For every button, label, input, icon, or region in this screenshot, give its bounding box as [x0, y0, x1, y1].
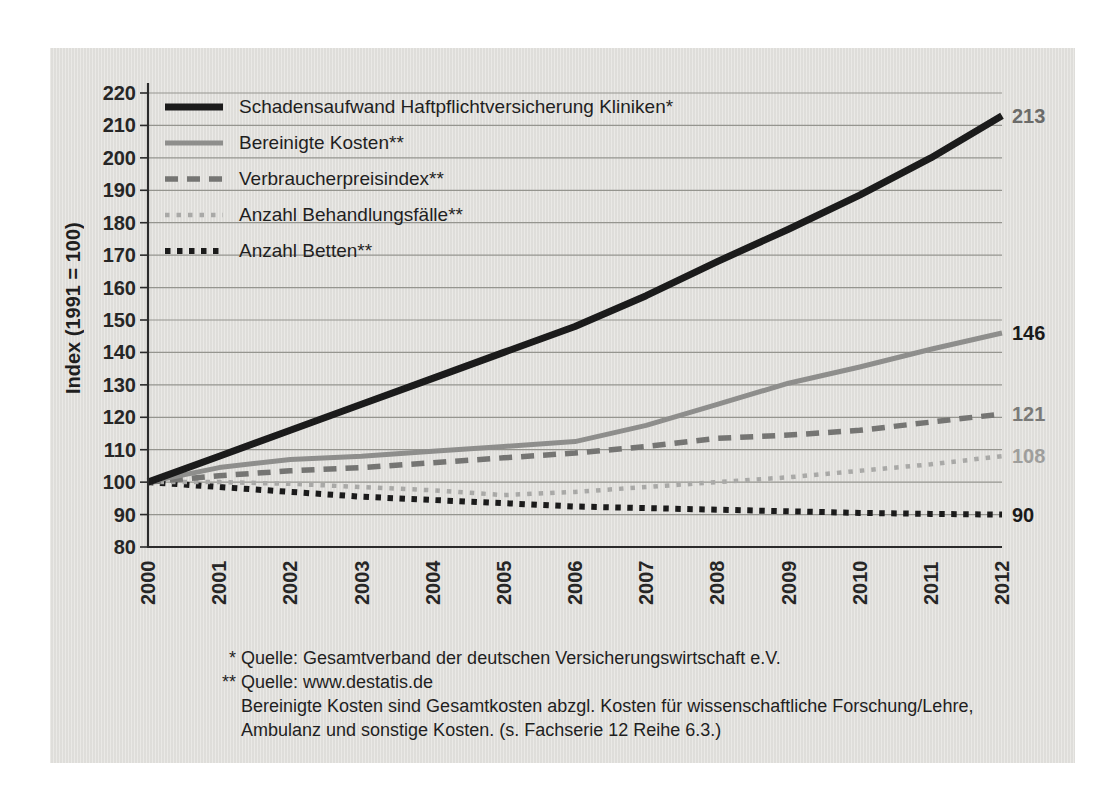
y-tick-label: 170: [103, 244, 136, 266]
y-tick-label: 130: [103, 374, 136, 396]
y-tick-label: 220: [103, 82, 136, 104]
series-line: [148, 482, 1002, 514]
y-tick-label: 110: [104, 439, 136, 461]
y-tick-label: 160: [103, 277, 136, 299]
x-tick-label: 2003: [351, 561, 373, 606]
x-tick-label: 2009: [778, 561, 800, 606]
footnote-text: Quelle: www.destatis.de: [241, 670, 433, 694]
footnote-line: Bereinigte Kosten sind Gesamtkosten abzg…: [170, 694, 1030, 718]
legend-sample-line: [165, 102, 223, 112]
x-tick-label: 2007: [635, 561, 657, 606]
x-tick-label: 2005: [493, 561, 515, 606]
footnote-line: ** Quelle: www.destatis.de: [170, 670, 1030, 694]
x-tick-label: 2000: [137, 561, 159, 606]
y-axis-title: Index (1991 = 100): [62, 216, 85, 401]
footnote-marker: *: [170, 646, 241, 670]
x-tick-label: 2011: [920, 562, 942, 605]
footnote-text: Quelle: Gesamtverband der deutschen Vers…: [241, 646, 781, 670]
x-tick-label: 2004: [422, 560, 444, 605]
x-tick-label: 2008: [706, 561, 728, 606]
legend-item: Anzahl Behandlungsfälle**: [165, 197, 673, 233]
footnote-marker: [170, 694, 241, 718]
series-end-value-label: 213: [1012, 105, 1045, 127]
legend-label: Schadensaufwand Haftpflichtversicherung …: [239, 96, 673, 118]
y-tick-label: 200: [103, 147, 136, 169]
series-line: [148, 333, 1002, 482]
footnote-marker: **: [170, 670, 241, 694]
legend-label: Anzahl Betten**: [239, 240, 372, 262]
legend-sample-line: [165, 246, 223, 256]
legend-item: Bereinigte Kosten**: [165, 125, 673, 161]
y-tick-label: 140: [103, 341, 136, 363]
legend-item: Anzahl Betten**: [165, 233, 673, 269]
x-tick-label: 2002: [279, 561, 301, 606]
x-tick-label: 2012: [991, 561, 1013, 606]
legend-sample-line: [165, 138, 223, 148]
legend: Schadensaufwand Haftpflichtversicherung …: [165, 89, 673, 269]
y-tick-label: 100: [103, 471, 136, 493]
legend-label: Verbraucherpreisindex**: [239, 168, 444, 190]
series-end-value-label: 90: [1012, 504, 1034, 526]
footnote-marker: [170, 718, 241, 742]
y-tick-label: 120: [103, 406, 136, 428]
series-end-value-label: 108: [1012, 445, 1045, 467]
y-tick-label: 190: [103, 179, 136, 201]
y-tick-label: 150: [103, 309, 136, 331]
x-tick-label: 2010: [849, 561, 871, 606]
legend-item: Schadensaufwand Haftpflichtversicherung …: [165, 89, 673, 125]
y-tick-label: 80: [114, 536, 136, 558]
legend-sample-line: [165, 174, 223, 184]
x-tick-label: 2006: [564, 561, 586, 606]
legend-label: Anzahl Behandlungsfälle**: [239, 204, 463, 226]
series-line: [148, 414, 1002, 482]
x-tick-label: 2001: [208, 561, 230, 606]
legend-label: Bereinigte Kosten**: [239, 132, 404, 154]
footnotes: * Quelle: Gesamtverband der deutschen Ve…: [170, 646, 1030, 742]
footnote-text: Bereinigte Kosten sind Gesamtkosten abzg…: [241, 694, 973, 718]
y-tick-label: 180: [103, 212, 136, 234]
y-tick-label: 210: [103, 114, 136, 136]
series-end-value-label: 121: [1012, 403, 1045, 425]
footnote-line: * Quelle: Gesamtverband der deutschen Ve…: [170, 646, 1030, 670]
y-tick-label: 90: [114, 504, 136, 526]
footnote-text: Ambulanz und sonstige Kosten. (s. Fachse…: [241, 718, 721, 742]
legend-item: Verbraucherpreisindex**: [165, 161, 673, 197]
footnote-line: Ambulanz und sonstige Kosten. (s. Fachse…: [170, 718, 1030, 742]
legend-sample-line: [165, 210, 223, 220]
figure-panel: 8090100110120130140150160170180190200210…: [50, 48, 1075, 763]
series-end-value-label: 146: [1012, 322, 1045, 344]
